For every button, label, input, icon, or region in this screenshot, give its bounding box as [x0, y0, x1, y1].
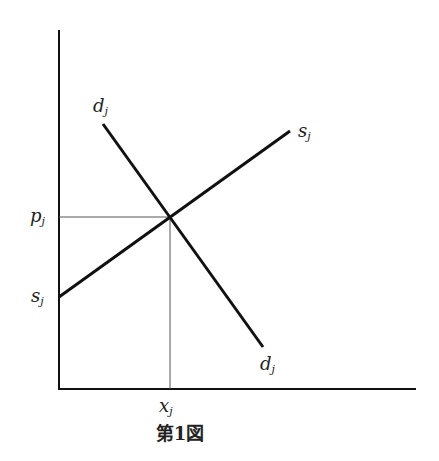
supply-label-left: sj	[31, 285, 44, 308]
demand-line	[103, 124, 263, 347]
figure-caption: 第1図	[156, 423, 205, 444]
demand-label-bottom: dj	[260, 353, 276, 376]
price-label: pj	[30, 205, 46, 228]
supply-label-top: sj	[298, 120, 311, 143]
quantity-label: xj	[159, 395, 173, 418]
demand-label-top: dj	[93, 95, 109, 118]
supply-line	[59, 131, 290, 297]
supply-demand-diagram: dj sj pj sj dj xj 第1図	[0, 0, 439, 461]
